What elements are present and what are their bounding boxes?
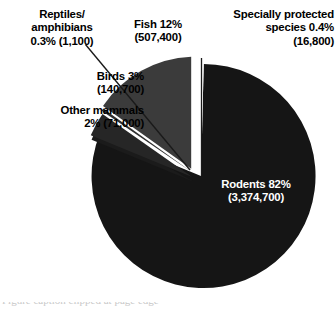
pie-label-rodents-line2: (3,374,700)	[196, 191, 316, 204]
pie-label-rodents-line1: Rodents 82%	[196, 178, 316, 191]
clipped-caption-strip: Figure caption clipped at page edge	[0, 302, 336, 310]
pie-label-other-mammals-line1: Other mammals	[0, 104, 144, 117]
pie-label-reptiles-amphibians-line1: Reptiles/	[2, 8, 122, 21]
pie-label-fish-line2: (507,400)	[108, 31, 208, 44]
pie-label-reptiles-amphibians: Reptiles/ amphibians 0.3% (1,100)	[2, 8, 122, 48]
pie-label-reptiles-amphibians-line3: 0.3% (1,100)	[2, 35, 122, 48]
pie-label-rodents: Rodents 82% (3,374,700)	[196, 178, 316, 205]
pie-label-specially-protected-species: Specially protected species 0.4% (16,800…	[208, 8, 334, 48]
pie-label-specially-protected-species-line3: (16,800)	[208, 35, 334, 48]
pie-label-reptiles-amphibians-line2: amphibians	[2, 21, 122, 34]
pie-label-other-mammals: Other mammals 2% (71,000)	[0, 104, 144, 131]
pie-label-birds-line1: Birds 3%	[6, 70, 144, 83]
pie-label-other-mammals-line2: 2% (71,000)	[0, 117, 144, 130]
pie-label-specially-protected-species-line2: species 0.4%	[208, 21, 334, 34]
pie-label-birds: Birds 3% (140,700)	[6, 70, 144, 97]
pie-label-specially-protected-species-line1: Specially protected	[208, 8, 334, 21]
pie-chart: Reptiles/ amphibians 0.3% (1,100) Fish 1…	[0, 0, 336, 310]
clipped-caption-text: Figure caption clipped at page edge	[2, 302, 159, 306]
pie-label-fish-line1: Fish 12%	[108, 18, 208, 31]
pie-label-birds-line2: (140,700)	[6, 83, 144, 96]
pie-label-fish: Fish 12% (507,400)	[108, 18, 208, 45]
